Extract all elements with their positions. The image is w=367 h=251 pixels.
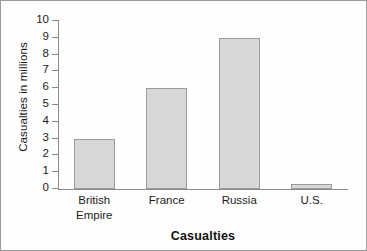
y-tick-mark (52, 54, 58, 55)
category-label-line: Empire (58, 208, 131, 223)
bar-chart-figure: Casualties in millions 109876543210 Brit… (0, 0, 367, 251)
x-axis-category-label: BritishEmpire (58, 193, 131, 222)
bar (146, 88, 187, 189)
x-axis-category-label: Russia (203, 193, 276, 208)
bar (74, 139, 115, 189)
y-tick-mark (52, 87, 58, 88)
y-tick-label: 7 (43, 63, 49, 75)
y-tick-label: 1 (43, 164, 49, 176)
x-axis-category-labels: BritishEmpireFranceRussiaU.S. (58, 193, 348, 227)
y-tick-mark (52, 138, 58, 139)
category-label-line: Russia (203, 193, 276, 208)
y-tick-label: 0 (43, 181, 49, 193)
category-label-line: France (131, 193, 204, 208)
y-axis-line (58, 20, 59, 189)
x-axis-line (58, 189, 348, 190)
y-tick-label: 6 (43, 80, 49, 92)
y-tick-mark (52, 104, 58, 105)
y-tick-mark (52, 154, 58, 155)
category-label-line: U.S. (276, 193, 349, 208)
y-tick-mark (52, 20, 58, 21)
y-tick-mark (52, 70, 58, 71)
y-tick-label: 9 (43, 30, 49, 42)
x-axis-category-label: France (131, 193, 204, 208)
y-tick-label: 3 (43, 131, 49, 143)
y-tick-mark (52, 171, 58, 172)
bar (219, 38, 260, 189)
y-tick-label: 8 (43, 47, 49, 59)
y-axis-title: Casualties in millions (15, 3, 31, 191)
y-tick-label: 2 (43, 147, 49, 159)
y-tick-mark (52, 121, 58, 122)
y-tick-label: 5 (43, 97, 49, 109)
x-axis-category-label: U.S. (276, 193, 349, 208)
bar (291, 184, 332, 189)
y-tick-mark (52, 188, 58, 189)
category-label-line: British (58, 193, 131, 208)
plot-area: 109876543210 (58, 21, 348, 189)
chart-title: Casualties (58, 229, 348, 243)
y-tick-label: 10 (36, 13, 49, 25)
y-tick-mark (52, 37, 58, 38)
y-tick-label: 4 (43, 114, 49, 126)
